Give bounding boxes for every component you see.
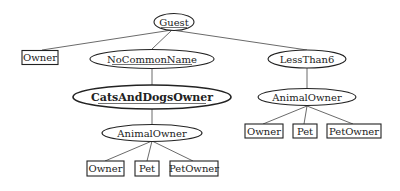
node-animal-owner-left: AnimalOwner [102,125,202,142]
edge-animalowner-petowner-right [307,106,353,124]
node-label: Pet [297,126,313,137]
node-animal-owner-right: AnimalOwner [258,89,356,106]
node-pet-owner-left: PetOwner [169,161,219,176]
node-label: Owner [247,126,281,137]
node-guest: Guest [154,14,194,31]
node-pet-owner-right: PetOwner [327,124,381,138]
edge-animalowner-pet-right [304,106,307,124]
edge-guest-owner [42,30,172,50]
node-less-than-6: LessThan6 [268,50,346,68]
node-label: LessThan6 [280,54,335,65]
node-owner-left: Owner [87,161,124,176]
node-label: PetOwner [329,126,379,137]
edge-animalowner-petowner-left [152,141,193,161]
tree-diagram: Guest Owner NoCommonName LessThan6 CatsA… [0,0,400,191]
node-label: AnimalOwner [271,92,342,103]
node-label: NoCommonName [107,54,197,65]
node-owner-top: Owner [22,51,58,65]
node-label: PetOwner [169,163,219,174]
edge-animalowner-owner-left [105,141,152,161]
edge-animalowner-owner-right [263,106,307,124]
node-cats-and-dogs-owner: CatsAndDogsOwner [73,85,231,109]
node-label: CatsAndDogsOwner [91,91,213,104]
node-label: Pet [139,163,155,174]
edge-guest-lessthan6 [172,30,307,50]
node-label: Owner [23,52,57,63]
node-label: Owner [89,163,123,174]
node-pet-left: Pet [135,161,159,176]
node-owner-right: Owner [245,124,283,138]
node-no-common-name: NoCommonName [90,50,214,69]
node-pet-right: Pet [293,124,317,138]
node-label: Guest [159,17,189,28]
node-label: AnimalOwner [116,128,187,139]
edge-animalowner-pet-left [147,141,152,161]
